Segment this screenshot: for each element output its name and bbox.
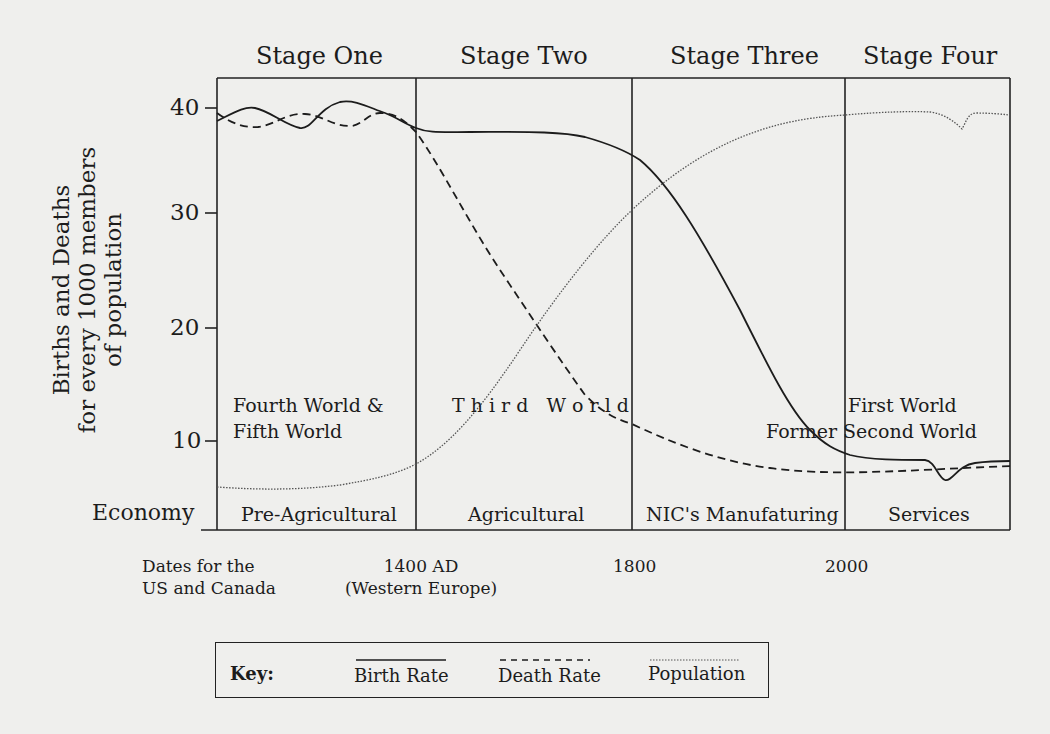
- economy-services: Services: [888, 503, 970, 525]
- economy-agricultural: Agricultural: [468, 503, 584, 525]
- key-birth-rate: Birth Rate: [354, 665, 449, 686]
- region-fourth-fifth-world: Fourth World & Fifth World: [233, 392, 384, 444]
- region-fourth-line2: Fifth World: [233, 418, 384, 444]
- date-2000: 2000: [825, 555, 868, 577]
- stage-two-label: Stage Two: [460, 42, 588, 70]
- date-1400-line2: (Western Europe): [336, 577, 506, 599]
- region-first-world: First World: [848, 392, 957, 418]
- date-1400-line1: 1400 AD: [336, 555, 506, 577]
- region-third-world: T h i r d W o r l d: [452, 392, 629, 418]
- economy-pre-agricultural: Pre-Agricultural: [241, 503, 397, 525]
- y-axis-label-line3: of population: [100, 110, 126, 470]
- y-axis-label-line1: Births and Deaths: [48, 110, 74, 470]
- region-former-second-world: Former Second World: [766, 418, 977, 444]
- chart-frame: [201, 78, 1010, 530]
- birth-rate-swatch: [356, 657, 448, 663]
- death-rate-swatch: [500, 657, 592, 663]
- key-death-label: Death Rate: [498, 665, 601, 686]
- stage-four-label: Stage Four: [863, 42, 997, 70]
- y-axis-label-line2: for every 1000 members: [74, 110, 100, 470]
- date-1800: 1800: [613, 555, 656, 577]
- stage-three-label: Stage Three: [670, 42, 819, 70]
- economy-manufacturing: NIC's Manufaturing: [646, 503, 839, 525]
- key-population: Population: [648, 663, 745, 684]
- key-death-rate: Death Rate: [498, 665, 601, 686]
- dates-label-line1: Dates for the: [142, 555, 276, 577]
- y-tick-30: 30: [170, 199, 199, 225]
- date-1400: 1400 AD (Western Europe): [336, 555, 506, 599]
- chart-plot: [0, 0, 1050, 734]
- region-fourth-line1: Fourth World &: [233, 392, 384, 418]
- y-tick-10: 10: [172, 427, 201, 453]
- economy-label: Economy: [92, 500, 194, 525]
- key-title: Key:: [230, 663, 274, 684]
- y-axis-label: Births and Deaths for every 1000 members…: [48, 110, 126, 470]
- key-population-label: Population: [648, 663, 745, 684]
- y-tick-40: 40: [170, 94, 199, 120]
- population-swatch: [650, 657, 742, 663]
- y-tick-20: 20: [170, 314, 199, 340]
- dates-label: Dates for the US and Canada: [142, 555, 276, 599]
- key-birth-label: Birth Rate: [354, 665, 449, 686]
- stage-one-label: Stage One: [256, 42, 383, 70]
- legend-key: Key: Birth Rate Death Rate Population: [215, 642, 769, 698]
- dates-label-line2: US and Canada: [142, 577, 276, 599]
- y-ticks: [205, 108, 217, 441]
